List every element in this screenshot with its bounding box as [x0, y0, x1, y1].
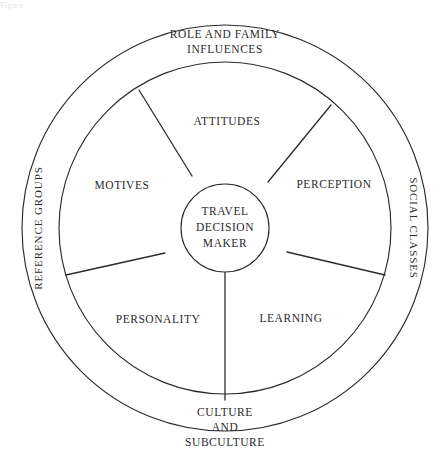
outer-label-role-and-family-influences: ROLE AND FAMILYINFLUENCES — [170, 27, 280, 57]
segment-label-attitudes: ATTITUDES — [194, 114, 261, 129]
spoke-left — [66, 253, 165, 275]
segment-label-learning: LEARNING — [259, 311, 322, 326]
outer-label-reference-groups: REFERENCE GROUPS — [31, 166, 46, 290]
spoke-upper-left — [139, 90, 192, 176]
outer-label-culture-and-subculture: CULTUREANDSUBCULTURE — [185, 405, 265, 451]
segment-label-personality: PERSONALITY — [116, 312, 201, 327]
spoke-upper-right — [268, 105, 331, 182]
travel-decision-diagram: Figure TRAVELDECISIONMAKER ATTITUDESPERC… — [0, 0, 447, 464]
core-label: TRAVELDECISIONMAKER — [196, 204, 254, 252]
segment-label-perception: PERCEPTION — [296, 177, 371, 192]
outer-label-social-classes: SOCIAL CLASSES — [407, 177, 422, 279]
spoke-right — [287, 252, 385, 275]
segment-label-motives: MOTIVES — [95, 178, 150, 193]
